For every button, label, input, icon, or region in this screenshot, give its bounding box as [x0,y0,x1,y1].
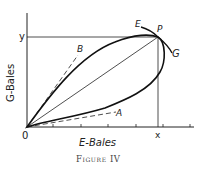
label-e: E [135,20,141,29]
label-y: y [19,32,25,42]
tangent-oa [27,112,116,127]
figure-iv: y x 0 P E G B A G-Bales E-Bales Figure I… [0,0,205,176]
figure-caption: Figure IV [76,155,121,164]
label-x: x [155,131,160,140]
label-p: P [157,25,162,34]
diagonal-op [27,37,158,127]
label-b: B [77,45,83,54]
label-origin: 0 [22,131,28,141]
label-a: A [116,109,122,118]
x-axis-title: E-Bales [79,138,116,148]
diagram-canvas [0,0,205,176]
y-axis-title: G-Bales [6,64,16,102]
label-g: G [172,49,180,59]
